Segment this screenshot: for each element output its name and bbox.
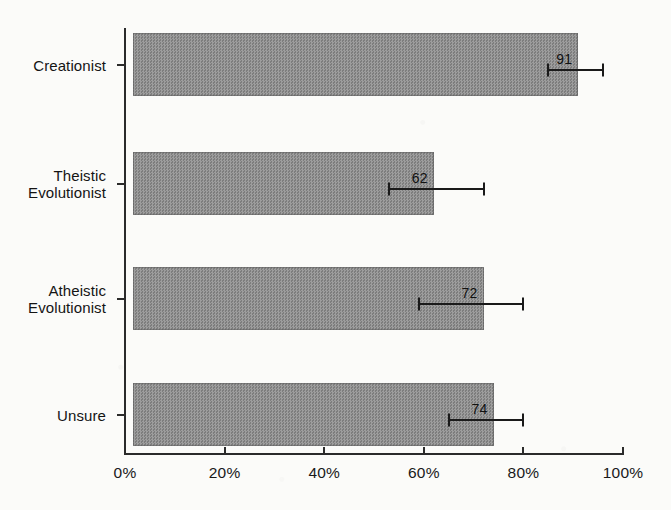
category-label: Theistic Evolutionist [28,167,106,201]
x-axis-tick-label: 80% [508,464,540,482]
x-axis-tick-label: 20% [209,464,241,482]
bar-chart-plot-area: 0%20%40%60%80%100%Creationist91Theistic … [0,0,671,510]
error-bar-cap-high [602,63,604,76]
error-bar-cap-low [547,63,549,76]
y-axis-tick [117,414,125,416]
bar [133,33,578,96]
category-label: Creationist [33,56,106,73]
y-axis-line [124,28,126,453]
bar [133,383,494,446]
y-axis-tick [117,298,125,300]
category-label: Unsure [57,406,106,423]
chart-page: 0%20%40%60%80%100%Creationist91Theistic … [0,0,671,510]
bar-value-label: 91 [556,51,572,67]
x-axis-tick-label: 0% [114,464,137,482]
error-bar-line [449,419,524,421]
y-axis-tick [117,183,125,185]
category-label: Atheistic Evolutionist [28,282,106,316]
x-axis-tick [622,447,624,454]
error-bar-line [389,188,484,190]
error-bar-line [419,303,524,305]
error-bar-cap-low [418,297,420,310]
error-bar-cap-low [448,413,450,426]
x-axis-tick [423,447,425,454]
x-axis-tick [522,447,524,454]
bar-value-label: 62 [412,170,428,186]
x-axis-tick-label: 100% [603,464,643,482]
error-bar-line [548,69,603,71]
error-bar-cap-high [522,297,524,310]
x-axis-tick-label: 40% [308,464,340,482]
error-bar-cap-high [483,182,485,195]
y-axis-tick [117,64,125,66]
bar [133,267,484,330]
x-axis-tick [323,447,325,454]
x-axis-tick [224,447,226,454]
bar-value-label: 74 [472,401,488,417]
x-axis-line [124,453,624,455]
x-axis-tick-label: 60% [408,464,440,482]
error-bar-cap-low [388,182,390,195]
bar-value-label: 72 [462,285,478,301]
error-bar-cap-high [522,413,524,426]
x-axis-tick [124,447,126,454]
